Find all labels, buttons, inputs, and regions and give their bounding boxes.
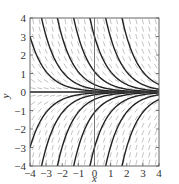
x-tick-label: 2: [124, 167, 130, 179]
slope-field-chart: −4−3−2−101234 −4−3−2−101234 x y: [0, 0, 179, 184]
y-axis-title: y: [0, 93, 11, 99]
y-tick-label: −2: [14, 123, 26, 135]
x-tick-label: −1: [73, 167, 85, 179]
x-tick-label: −3: [40, 167, 52, 179]
x-tick-label: 3: [140, 167, 146, 179]
x-tick-label: 1: [108, 167, 114, 179]
y-tick-label: −4: [14, 160, 26, 172]
y-tick-label: 2: [21, 49, 27, 61]
y-tick-label: 0: [21, 86, 27, 98]
x-axis-title: x: [91, 172, 97, 184]
x-tick-label: 4: [156, 167, 162, 179]
y-tick-label: 4: [21, 12, 27, 24]
y-tick-label: −3: [14, 142, 26, 154]
x-tick-label: −2: [56, 167, 68, 179]
y-tick-label: 3: [21, 31, 27, 43]
y-tick-label: 1: [21, 68, 27, 80]
y-tick-label: −1: [14, 105, 26, 117]
